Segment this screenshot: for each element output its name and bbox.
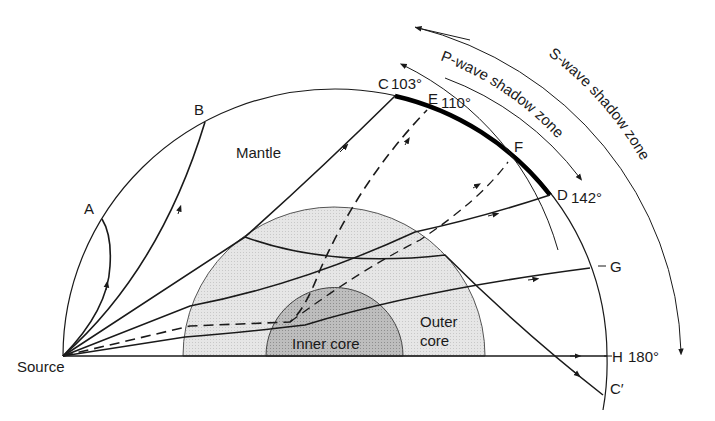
point-h-label: H	[612, 348, 623, 365]
outer-core-label-1: Outer	[420, 313, 458, 330]
point-c-label: C	[378, 75, 389, 92]
point-h-degrees: 180°	[628, 348, 659, 365]
ray-a	[63, 219, 110, 356]
point-f-label: F	[514, 138, 523, 155]
point-d-label: D	[557, 186, 568, 203]
p-wave-shadow-arc	[403, 65, 558, 250]
point-c-degrees: 103°	[391, 75, 422, 92]
point-e-degrees: 110°	[441, 94, 471, 111]
inner-core-label: Inner core	[292, 335, 360, 352]
mantle-label: Mantle	[236, 144, 281, 161]
point-c-prime-label: C′	[610, 380, 624, 397]
point-g-label: G	[610, 258, 622, 275]
point-b-label: B	[194, 101, 204, 118]
point-d-degrees: 142°	[571, 189, 602, 206]
outer-core-label-2: core	[420, 332, 449, 349]
point-a-label: A	[84, 200, 94, 217]
source-label: Source	[17, 358, 65, 375]
seismic-diagram: Source Mantle Inner core Outer core A B …	[0, 0, 715, 421]
ray-b	[63, 122, 205, 356]
point-e-label: E	[428, 90, 438, 107]
